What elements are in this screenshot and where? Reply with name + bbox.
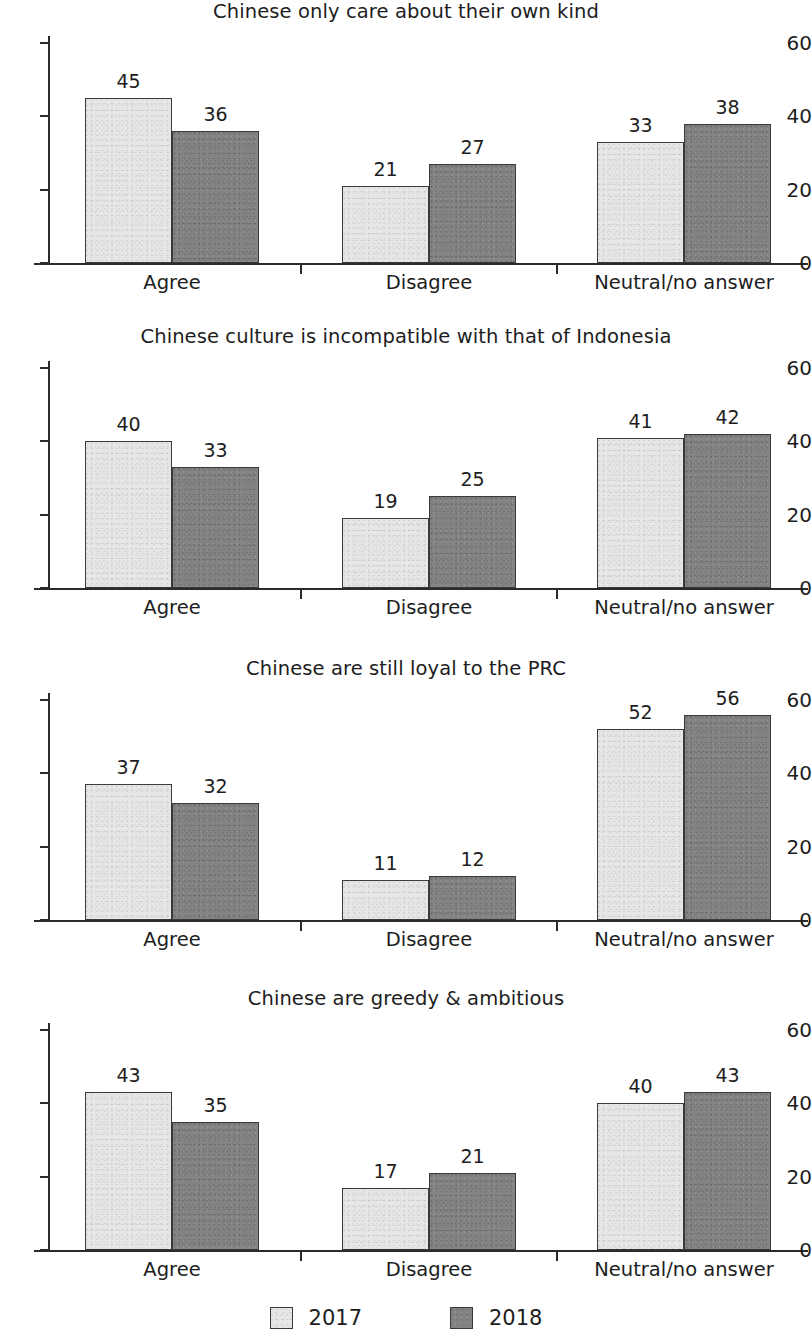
bar-2018-agree bbox=[172, 467, 259, 588]
bar-2017-neutral-no-answer bbox=[597, 142, 684, 263]
bar-2017-agree bbox=[85, 98, 172, 263]
bars-layer: 3732Agree1112Disagree5256Neutral/no answ… bbox=[0, 657, 812, 920]
bar-2018-disagree bbox=[429, 876, 516, 920]
bar-value-label: 27 bbox=[429, 138, 516, 157]
bar-2018-agree bbox=[172, 131, 259, 263]
bar-value-label: 38 bbox=[684, 98, 771, 117]
bar-value-label: 17 bbox=[342, 1162, 429, 1181]
x-axis-line bbox=[34, 1250, 808, 1252]
bar-2017-agree bbox=[85, 441, 172, 588]
bar-value-label: 45 bbox=[85, 72, 172, 91]
bar-value-label: 21 bbox=[429, 1147, 516, 1166]
bar-2018-neutral-no-answer bbox=[684, 434, 771, 588]
x-axis-line bbox=[34, 920, 808, 922]
category-label-disagree: Disagree bbox=[282, 929, 576, 951]
bar-value-label: 21 bbox=[342, 160, 429, 179]
bar-2017-agree bbox=[85, 784, 172, 920]
bar-2018-disagree bbox=[429, 496, 516, 588]
bar-2018-neutral-no-answer bbox=[684, 124, 771, 263]
bar-value-label: 32 bbox=[172, 777, 259, 796]
chart-panel-4: Chinese are greedy & ambitious0204060433… bbox=[0, 987, 812, 1292]
bar-value-label: 52 bbox=[597, 703, 684, 722]
x-axis-line bbox=[34, 588, 808, 590]
bar-2017-neutral-no-answer bbox=[597, 1103, 684, 1250]
bar-value-label: 42 bbox=[684, 408, 771, 427]
category-label-neutral-no-answer: Neutral/no answer bbox=[537, 272, 812, 294]
plot-area: 02040604335Agree1721Disagree4043Neutral/… bbox=[0, 987, 812, 1292]
bars-layer: 4536Agree2127Disagree3338Neutral/no answ… bbox=[0, 0, 812, 263]
category-label-agree: Agree bbox=[25, 272, 319, 294]
bar-2018-agree bbox=[172, 803, 259, 920]
bar-2018-disagree bbox=[429, 164, 516, 263]
bar-value-label: 11 bbox=[342, 854, 429, 873]
bar-value-label: 56 bbox=[684, 689, 771, 708]
category-label-disagree: Disagree bbox=[282, 1259, 576, 1281]
plot-area: 02040604536Agree2127Disagree3338Neutral/… bbox=[0, 0, 812, 305]
legend-label-2018: 2018 bbox=[489, 1308, 542, 1329]
bar-value-label: 33 bbox=[597, 116, 684, 135]
bar-2017-neutral-no-answer bbox=[597, 729, 684, 920]
category-label-agree: Agree bbox=[25, 1259, 319, 1281]
x-axis-line bbox=[34, 263, 808, 265]
bar-2018-agree bbox=[172, 1122, 259, 1250]
category-label-agree: Agree bbox=[25, 929, 319, 951]
bars-layer: 4033Agree1925Disagree4142Neutral/no answ… bbox=[0, 325, 812, 588]
bar-2017-neutral-no-answer bbox=[597, 438, 684, 588]
bars-layer: 4335Agree1721Disagree4043Neutral/no answ… bbox=[0, 987, 812, 1250]
bar-value-label: 12 bbox=[429, 850, 516, 869]
category-label-neutral-no-answer: Neutral/no answer bbox=[537, 597, 812, 619]
chart-panel-1: Chinese only care about their own kind02… bbox=[0, 0, 812, 305]
bar-2018-neutral-no-answer bbox=[684, 715, 771, 920]
chart-legend: 2017 2018 bbox=[0, 1298, 812, 1338]
chart-panel-2: Chinese culture is incompatible with tha… bbox=[0, 325, 812, 630]
bar-value-label: 43 bbox=[684, 1066, 771, 1085]
bar-2017-disagree bbox=[342, 880, 429, 920]
bar-value-label: 33 bbox=[172, 441, 259, 460]
bar-2017-disagree bbox=[342, 518, 429, 588]
legend-swatch-2018-icon bbox=[450, 1307, 473, 1329]
bar-2017-disagree bbox=[342, 1188, 429, 1250]
bar-2018-neutral-no-answer bbox=[684, 1092, 771, 1250]
plot-area: 02040604033Agree1925Disagree4142Neutral/… bbox=[0, 325, 812, 630]
bar-value-label: 41 bbox=[597, 412, 684, 431]
legend-label-2017: 2017 bbox=[309, 1308, 362, 1329]
category-label-disagree: Disagree bbox=[282, 597, 576, 619]
bar-2018-disagree bbox=[429, 1173, 516, 1250]
category-label-disagree: Disagree bbox=[282, 272, 576, 294]
legend-item-2018: 2018 bbox=[450, 1307, 542, 1329]
bar-2017-agree bbox=[85, 1092, 172, 1250]
category-label-neutral-no-answer: Neutral/no answer bbox=[537, 929, 812, 951]
plot-area: 02040603732Agree1112Disagree5256Neutral/… bbox=[0, 657, 812, 962]
bar-value-label: 40 bbox=[597, 1077, 684, 1096]
bar-2017-disagree bbox=[342, 186, 429, 263]
legend-item-2017: 2017 bbox=[270, 1307, 362, 1329]
bar-value-label: 36 bbox=[172, 105, 259, 124]
chart-panel-3: Chinese are still loyal to the PRC020406… bbox=[0, 657, 812, 962]
bar-value-label: 19 bbox=[342, 492, 429, 511]
bar-value-label: 40 bbox=[85, 415, 172, 434]
figure-root: Chinese only care about their own kind02… bbox=[0, 0, 812, 1343]
category-label-agree: Agree bbox=[25, 597, 319, 619]
bar-value-label: 43 bbox=[85, 1066, 172, 1085]
legend-swatch-2017-icon bbox=[270, 1307, 293, 1329]
bar-value-label: 35 bbox=[172, 1096, 259, 1115]
bar-value-label: 25 bbox=[429, 470, 516, 489]
bar-value-label: 37 bbox=[85, 758, 172, 777]
category-label-neutral-no-answer: Neutral/no answer bbox=[537, 1259, 812, 1281]
